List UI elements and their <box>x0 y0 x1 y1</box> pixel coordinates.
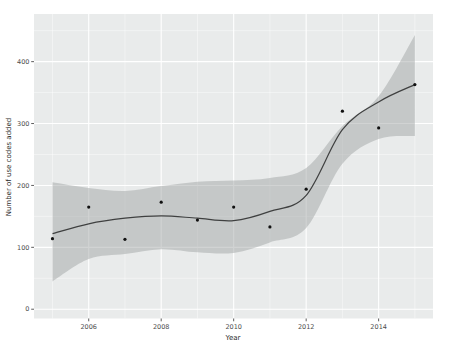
x-axis-title: Year <box>226 335 241 342</box>
x-tick-label: 2006 <box>80 323 97 331</box>
data-point <box>87 205 90 208</box>
data-point <box>160 201 163 204</box>
data-point <box>123 238 126 241</box>
y-tick-label: 100 <box>17 244 29 252</box>
data-point <box>305 188 308 191</box>
x-tick-label: 2008 <box>153 323 170 331</box>
y-axis-title: Number of use codes added <box>6 118 13 217</box>
data-point <box>196 218 199 221</box>
data-point <box>268 225 271 228</box>
y-tick-label: 200 <box>17 182 29 190</box>
figure: 200620082010201220140100200300400 Year N… <box>0 0 450 359</box>
data-point <box>232 205 235 208</box>
chart-canvas: 200620082010201220140100200300400 <box>0 0 450 359</box>
y-tick-label: 0 <box>25 305 29 313</box>
data-point <box>51 237 54 240</box>
data-point <box>341 110 344 113</box>
y-tick-label: 300 <box>17 120 29 128</box>
x-tick-label: 2010 <box>225 323 242 331</box>
data-point <box>413 83 416 86</box>
y-tick-label: 400 <box>17 58 29 66</box>
x-tick-label: 2014 <box>370 323 387 331</box>
data-point <box>377 126 380 129</box>
x-tick-label: 2012 <box>298 323 315 331</box>
